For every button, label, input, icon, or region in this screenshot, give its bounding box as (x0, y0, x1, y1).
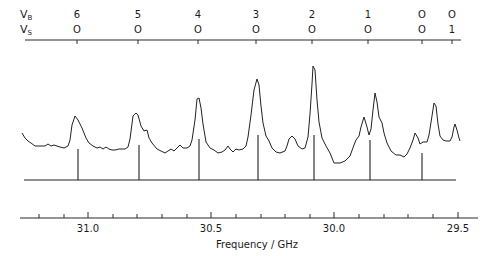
vb-value: 4 (195, 9, 201, 20)
vb-value: 2 (309, 9, 315, 20)
assignment-header: VB VS 6 5 4 3 2 1 O O O O O O O O O 1 (20, 8, 461, 44)
vs-value: O (252, 24, 260, 35)
x-tick-label: 31.0 (77, 223, 99, 234)
x-axis: 31.0 30.5 30.0 29.5 Frequency / GHz (20, 212, 478, 250)
x-axis-title: Frequency / GHz (216, 239, 298, 250)
x-tick-label: 30.0 (323, 223, 345, 234)
vb-value: 6 (74, 9, 80, 20)
vb-value: O (448, 9, 456, 20)
vb-value: 5 (135, 9, 141, 20)
vs-value: O (418, 24, 426, 35)
vs-value: O (364, 24, 372, 35)
spectrum-chart: VB VS 6 5 4 3 2 1 O O O O O O O O O 1 (0, 0, 496, 256)
vs-value: O (194, 24, 202, 35)
vs-value: 1 (449, 24, 455, 35)
x-tick-label: 30.5 (200, 223, 222, 234)
spectrum-trace (22, 66, 460, 163)
x-tick-label: 29.5 (447, 223, 469, 234)
vs-label: VS (20, 23, 33, 37)
vs-value: O (134, 24, 142, 35)
vb-value: O (418, 9, 426, 20)
vs-value: O (73, 24, 81, 35)
vb-value: 1 (365, 9, 371, 20)
vb-label: VB (20, 8, 33, 22)
vs-value: O (308, 24, 316, 35)
vb-value: 3 (253, 9, 259, 20)
x-axis-ticks (39, 212, 458, 218)
